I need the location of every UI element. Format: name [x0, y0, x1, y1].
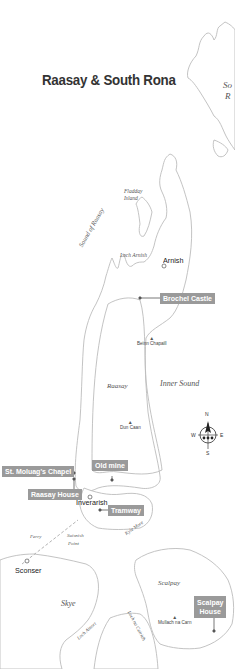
compass-w: W	[191, 432, 196, 438]
map-title: Raasay & South Rona	[42, 71, 176, 89]
raasay-house-tag[interactable]: Raasay House	[28, 489, 82, 500]
compass-e: E	[220, 432, 223, 438]
scalpay-house-tag[interactable]: Scalpay House	[194, 596, 226, 618]
sconser-marker	[25, 559, 29, 563]
inner-sound-label: Inner Sound	[160, 380, 199, 388]
fladday-label-1: Fladday	[124, 189, 142, 195]
scalpay-house-line-1: Scalpay	[197, 598, 223, 607]
raasay-coastline	[75, 154, 191, 492]
suisnish-label-2: Point	[68, 541, 79, 546]
tramway-tag[interactable]: Tramway	[108, 505, 144, 516]
skye-label: Skye	[61, 600, 76, 608]
beinn-chapaill-label: Beinn Chapaill	[137, 341, 167, 346]
sconser-label: Sconser	[15, 566, 41, 575]
compass-rose: N S E W	[190, 413, 226, 457]
fladday-label-2: Island	[124, 196, 138, 202]
sound-of-rona-label-1: So	[223, 81, 232, 90]
sound-of-rona-label-2: R	[225, 92, 231, 101]
old-mine-tag[interactable]: Old mine	[92, 460, 128, 471]
compass-n: N	[205, 411, 209, 417]
scalpay-house-line-2: House	[197, 607, 223, 616]
dun-caan-peak: ▲ Dun Caan	[120, 420, 141, 430]
brochel-castle-tag[interactable]: Brochel Castle	[160, 293, 215, 304]
st-moluags-chapel-tag[interactable]: St. Moluag's Chapel	[2, 466, 74, 477]
raasay-label: Raasay	[107, 383, 128, 390]
skye-south-coastline	[94, 613, 158, 669]
compass-s: S	[206, 450, 209, 456]
ferry-label: Ferry	[30, 534, 41, 539]
scalpay-label: Scalpay	[158, 580, 180, 587]
mullach-na-carn-label: Mullach na Carn	[158, 620, 191, 625]
dun-caan-label: Dun Caan	[120, 425, 141, 430]
arnish-label: Arnish	[163, 256, 183, 265]
suisnish-label-1: Suisnish	[67, 533, 84, 538]
islet-coastline	[213, 140, 228, 157]
fladday-coastline	[136, 197, 152, 236]
beinn-chapaill-peak: ▲ Beinn Chapaill	[137, 336, 167, 346]
mullach-na-carn-peak: ▲ Mullach na Carn	[158, 615, 191, 625]
loch-arnish-label: Loch Arnish	[120, 253, 147, 259]
